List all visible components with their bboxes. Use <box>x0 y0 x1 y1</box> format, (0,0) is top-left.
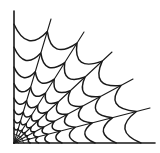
spider-web-icon <box>0 0 160 153</box>
web-spoke <box>14 79 133 143</box>
spider-web-illustration: spider web corner <box>0 0 160 153</box>
web-spoke <box>14 108 150 143</box>
web-spoke <box>14 19 51 143</box>
